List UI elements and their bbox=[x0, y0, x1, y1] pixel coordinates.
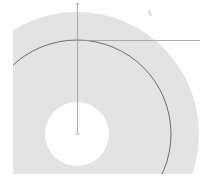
outer-disc bbox=[0, 12, 199, 184]
corner-mark-icon bbox=[149, 10, 151, 16]
quarter-disc-diagram bbox=[0, 0, 203, 184]
